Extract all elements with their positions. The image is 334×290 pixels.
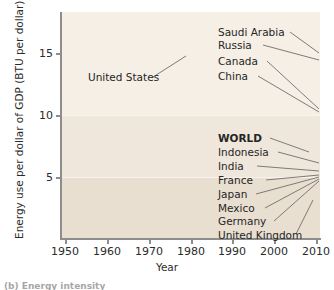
- x-tick-1970: [149, 239, 151, 244]
- annotation-russia: Russia: [218, 39, 252, 51]
- annotation-indonesia: Indonesia: [218, 146, 269, 158]
- gridline-5: [61, 177, 320, 178]
- x-tick-2010: [316, 239, 318, 244]
- x-tick-1960: [107, 239, 109, 244]
- annotation-canada: Canada: [218, 55, 258, 67]
- x-tick-1980: [191, 239, 193, 244]
- x-tick-label-1980: 1980: [168, 245, 214, 258]
- x-tick-label-2000: 2000: [251, 245, 297, 258]
- y-tick-label-10: 10: [27, 109, 53, 122]
- y-tick-5: [56, 177, 61, 179]
- figure-caption: (b) Energy intensity: [4, 281, 105, 290]
- energy-intensity-figure: Energy use per dollar of GDP (BTU per do…: [0, 0, 334, 290]
- annotation-france: France: [218, 174, 253, 186]
- annotation-china: China: [218, 70, 248, 82]
- y-tick-label-15: 15: [27, 47, 53, 60]
- y-tick-10: [56, 115, 61, 117]
- y-tick-label-5: 5: [27, 171, 53, 184]
- y-axis-line: [60, 12, 62, 240]
- background-band-middle: [61, 115, 320, 177]
- x-tick-1950: [65, 239, 67, 244]
- x-axis-title: Year: [0, 261, 334, 273]
- x-tick-label-2010: 2010: [293, 245, 334, 258]
- annotation-world: WORLD: [218, 132, 262, 144]
- annotation-united-states: United States: [88, 71, 159, 83]
- gridline-10: [61, 115, 320, 116]
- annotation-mexico: Mexico: [218, 202, 255, 214]
- annotation-saudi-arabia: Saudi Arabia: [218, 26, 285, 38]
- x-tick-label-1960: 1960: [84, 245, 130, 258]
- annotation-japan: Japan: [218, 188, 247, 200]
- x-tick-label-1970: 1970: [126, 245, 172, 258]
- plot-area: [61, 12, 320, 239]
- annotation-united-kingdom: United Kingdom: [218, 229, 302, 241]
- y-axis-title: Energy use per dollar of GDP (BTU per do…: [13, 9, 25, 239]
- x-tick-label-1990: 1990: [209, 245, 255, 258]
- x-tick-label-1950: 1950: [42, 245, 88, 258]
- annotation-germany: Germany: [218, 215, 266, 227]
- y-tick-15: [56, 53, 61, 55]
- annotation-india: India: [218, 160, 244, 172]
